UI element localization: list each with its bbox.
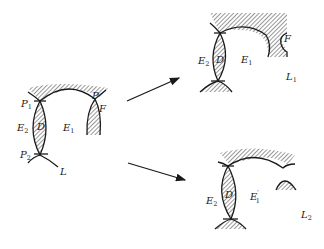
arrow-to-case-2 — [128, 163, 185, 180]
label-e2: E2 — [16, 122, 28, 135]
label-e2: E2 — [205, 195, 217, 208]
label-f: F — [283, 33, 292, 44]
arrow-to-case-1 — [127, 78, 179, 101]
label-d: D — [224, 189, 233, 200]
label-e1-prime: E′1 — [249, 189, 260, 205]
label-p2: P2 — [19, 149, 31, 162]
case-2-panel: E2 D E′1 L2 — [205, 148, 312, 229]
diagram-canvas: P1 P2 P F D E2 E1 L E2 D E1 F L1 — [0, 0, 324, 249]
top-hatched-region — [220, 148, 295, 165]
label-f: F — [98, 103, 107, 114]
original-panel: P1 P2 P F D E2 E1 L — [16, 84, 108, 177]
label-p: P — [91, 90, 99, 101]
label-p1: P1 — [20, 98, 32, 111]
label-l1: L1 — [285, 71, 297, 84]
label-l2: L2 — [300, 209, 312, 222]
label-d: D — [215, 54, 224, 65]
label-e2: E2 — [197, 55, 209, 68]
label-l: L — [59, 166, 67, 177]
label-e1: E1 — [240, 54, 252, 67]
case-1-panel: E2 D E1 F L1 — [197, 13, 297, 92]
curve-l — [28, 155, 58, 167]
label-d: D — [36, 121, 45, 132]
label-e1: E1 — [62, 122, 74, 135]
